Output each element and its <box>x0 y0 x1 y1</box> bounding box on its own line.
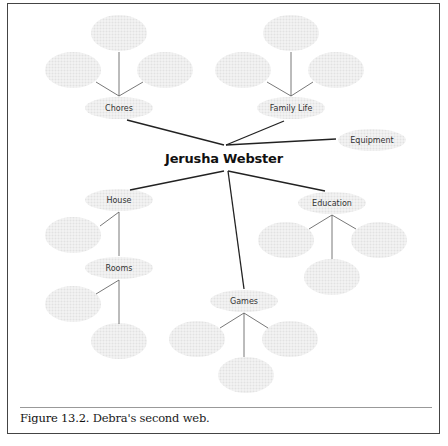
figure-caption: Figure 13.2. Debra's second web. <box>20 411 210 425</box>
caption-divider <box>20 407 432 408</box>
node-house: House <box>106 196 131 205</box>
caption-text: Debra's second web. <box>93 411 210 425</box>
center-node: Jerusha Webster <box>165 151 283 166</box>
node-equipment: Equipment <box>350 136 393 145</box>
node-family-life: Family Life <box>270 104 313 113</box>
empty-bubbles <box>45 15 407 393</box>
figure-number: Figure 13.2. <box>20 411 89 425</box>
web-diagram <box>0 0 448 446</box>
node-education: Education <box>312 199 352 208</box>
node-rooms: Rooms <box>106 264 133 273</box>
node-chores: Chores <box>105 104 133 113</box>
node-games: Games <box>230 297 258 306</box>
